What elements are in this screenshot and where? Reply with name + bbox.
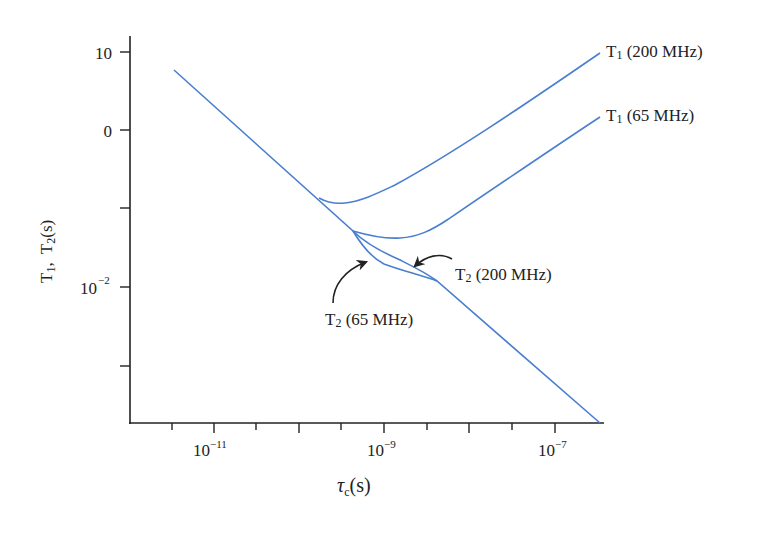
arrow-t2-200mhz-icon (415, 255, 452, 266)
y-tick-label: 0 (104, 122, 113, 141)
series-line-t2-65mhz (174, 70, 600, 423)
y-tick-label: 10 (80, 279, 97, 298)
label-t1-65mhz: T1 (65 MHz) (606, 106, 694, 126)
label-t2-200mhz: T2 (200 MHz) (455, 265, 552, 285)
arrow-t2-65mhz-icon (333, 262, 366, 303)
label-t2-65mhz: T2 (65 MHz) (325, 310, 413, 330)
series-line-t1-200mhz (319, 53, 600, 203)
y-tick-exponent: −2 (98, 274, 110, 286)
x-axis-label: τc(s) (337, 474, 371, 499)
label-t1-200mhz: T1 (200 MHz) (606, 42, 703, 62)
y-ticks (120, 52, 130, 366)
y-tick-label: 10 (95, 44, 112, 63)
x-ticks (172, 423, 555, 433)
x-tick-label: 10−7 (538, 438, 567, 460)
x-tick-label: 10−11 (193, 438, 227, 460)
curves (174, 53, 600, 423)
y-axis-label: T1, T2(s) (37, 220, 58, 283)
x-tick-label: 10−9 (367, 438, 396, 460)
relaxation-chart: 10 0 10 −2 10−11 10−9 10−7 τc(s) T1, T2(… (0, 0, 762, 533)
